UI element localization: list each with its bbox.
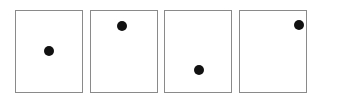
panel-2 [90, 10, 158, 93]
panel-4 [239, 10, 307, 93]
dot-icon [44, 46, 54, 56]
dot-icon [294, 20, 304, 30]
panel-3 [164, 10, 232, 93]
panel-1 [15, 10, 83, 93]
dot-icon [117, 21, 127, 31]
dot-icon [194, 65, 204, 75]
